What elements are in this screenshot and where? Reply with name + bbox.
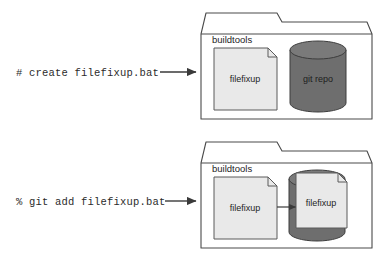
document-label-add: filefixup	[230, 203, 261, 213]
folder-title-create: buildtools	[212, 34, 252, 45]
git-staging-diagram: # create filefixup.bat buildtools filefi…	[0, 0, 389, 264]
diagram-canvas: # create filefixup.bat buildtools filefi…	[0, 0, 389, 264]
command-label-create: # create filefixup.bat	[16, 67, 159, 79]
database-label-create: git repo	[303, 74, 333, 84]
database-cylinder-top-create	[290, 41, 346, 59]
staged-document-label: filefixup	[306, 198, 337, 208]
panel-add: % git add filefixup.bat buildtools filef…	[16, 142, 372, 248]
folder-title-add: buildtools	[212, 163, 252, 174]
panel-create: # create filefixup.bat buildtools filefi…	[16, 13, 372, 119]
document-label-create: filefixup	[230, 74, 261, 84]
command-label-add: % git add filefixup.bat	[16, 196, 166, 208]
